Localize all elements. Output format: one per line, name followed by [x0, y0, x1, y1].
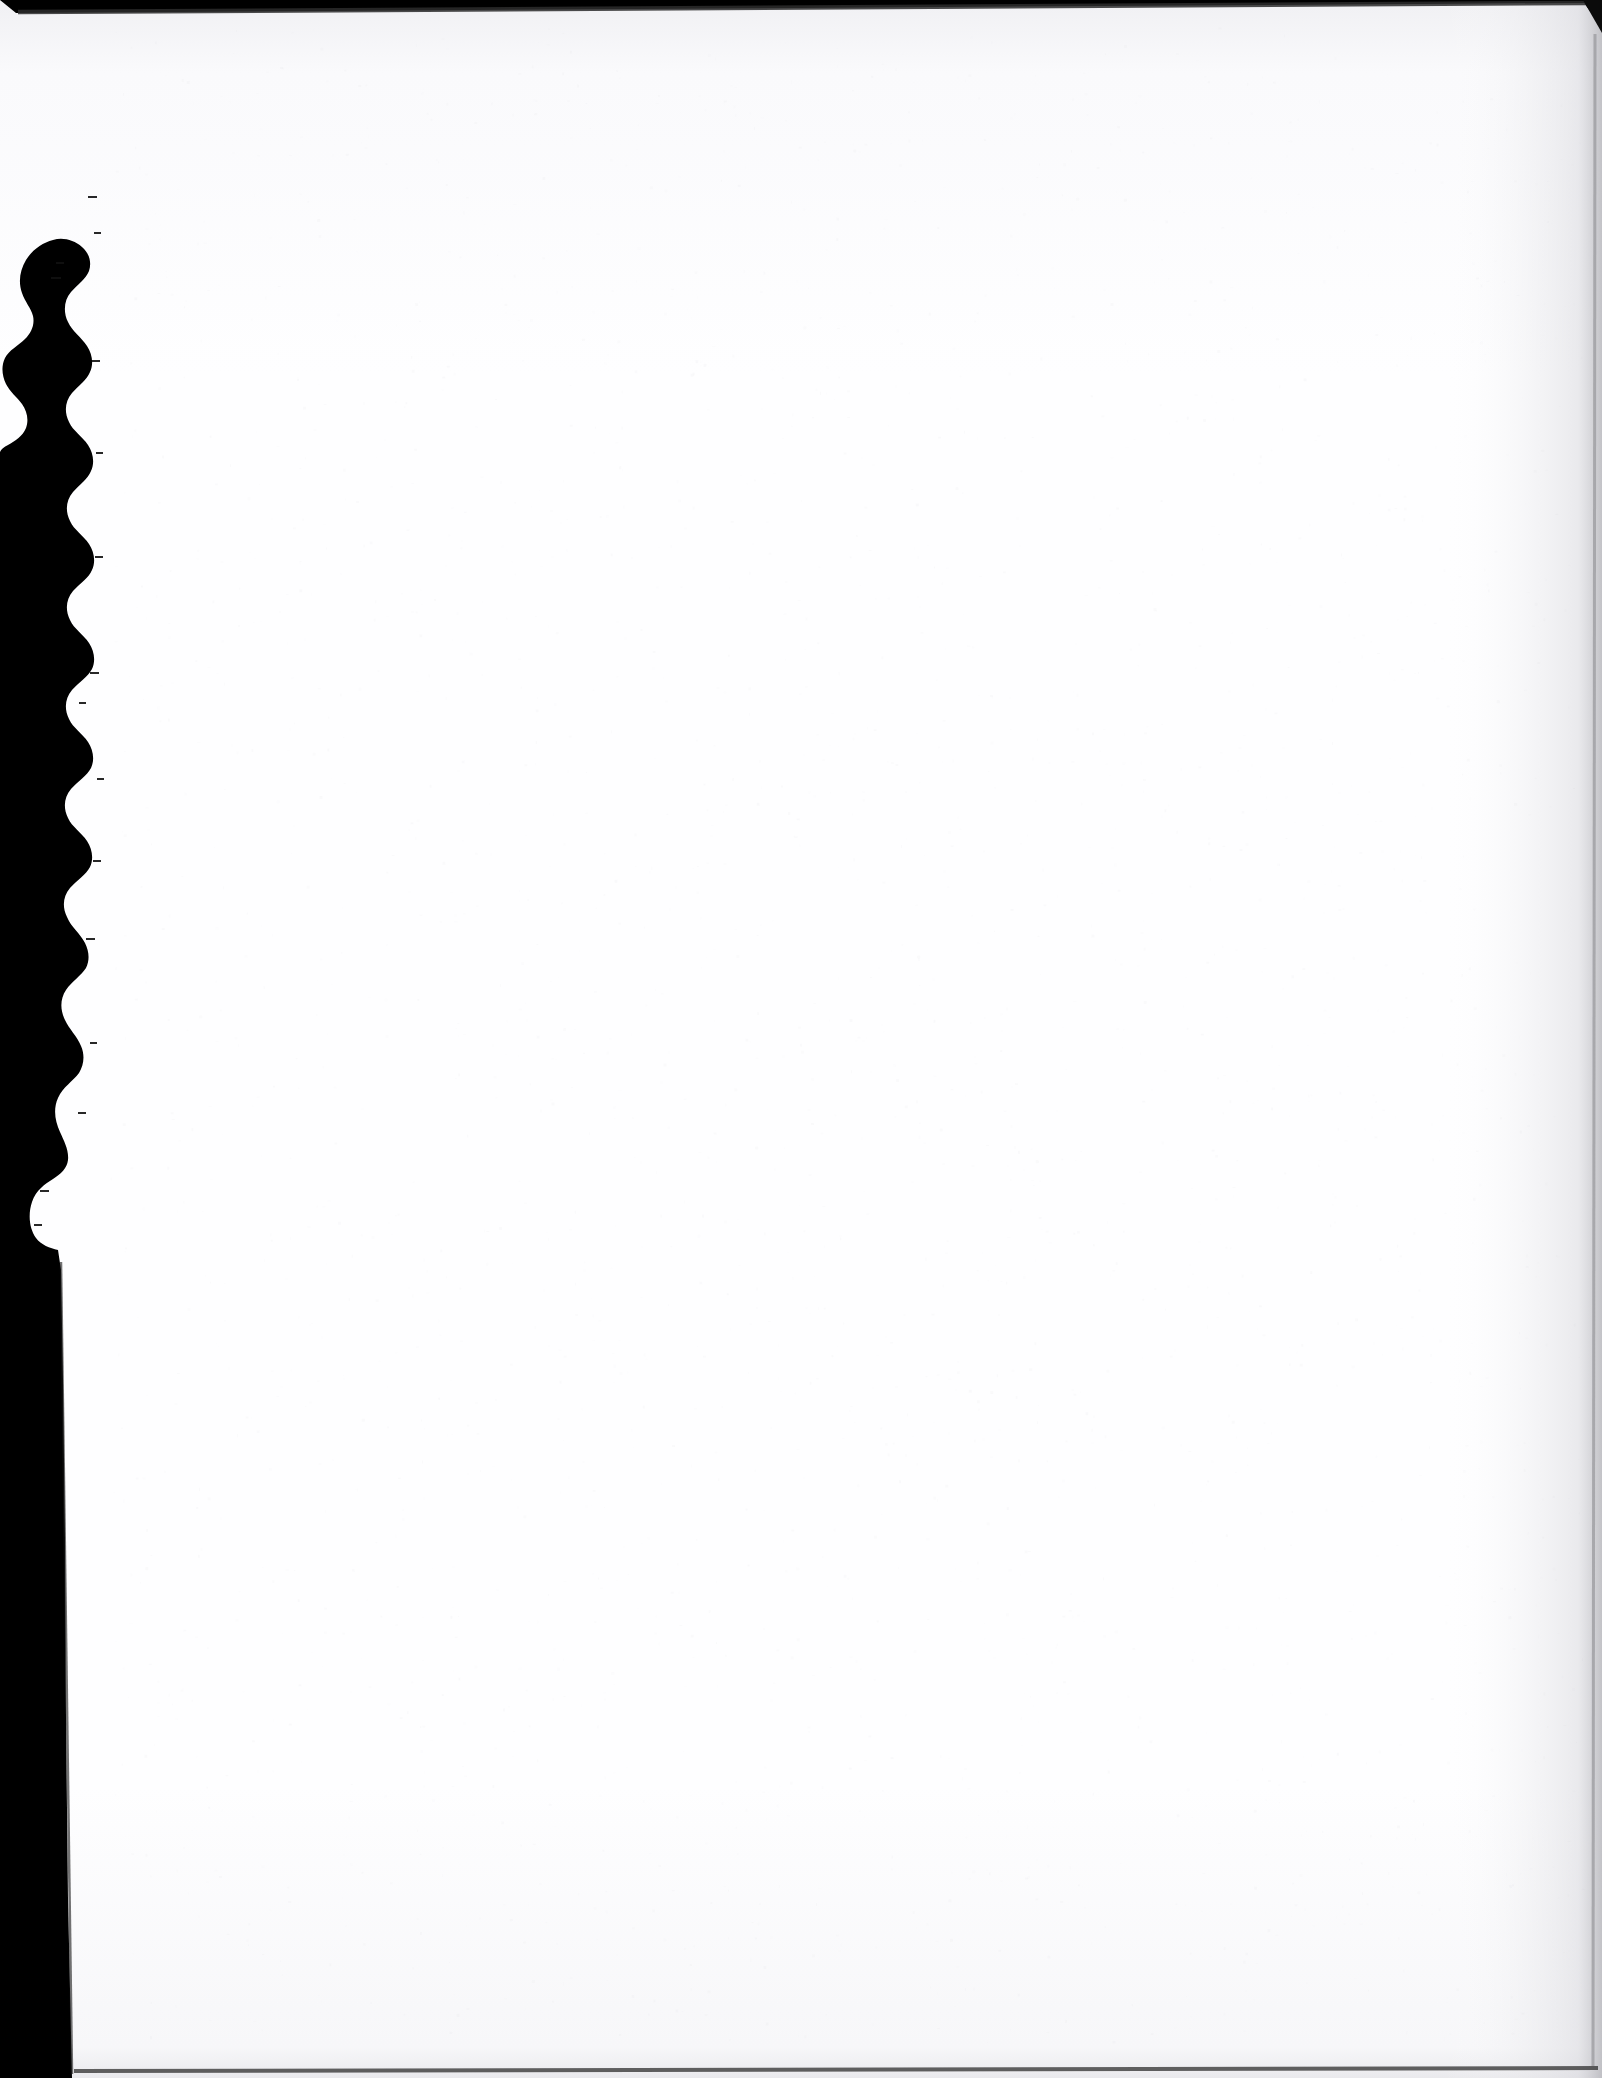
- right-edge-line: [1593, 34, 1595, 2066]
- scanned-page-canvas: [0, 0, 1602, 2078]
- blank-content-area: [120, 60, 1560, 2020]
